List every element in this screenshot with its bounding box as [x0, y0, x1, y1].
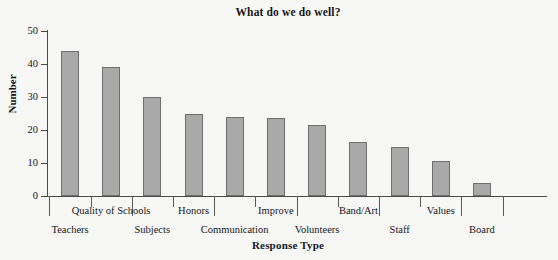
bar — [391, 147, 409, 197]
bar — [226, 117, 244, 196]
y-axis-tick — [41, 31, 47, 32]
bar — [185, 114, 203, 197]
y-axis-tick — [41, 130, 47, 131]
y-axis-tick-label: 10 — [2, 158, 38, 168]
bar — [432, 161, 450, 196]
x-axis-tick — [214, 196, 215, 216]
x-axis-tick — [255, 196, 256, 207]
y-axis-tick-label: 20 — [2, 125, 38, 135]
y-axis-tick-label: 50 — [2, 26, 38, 36]
x-axis-category-label: Subjects — [134, 225, 170, 236]
y-axis-line — [47, 30, 48, 197]
bar — [308, 125, 326, 196]
y-axis-tick — [41, 97, 47, 98]
y-axis-tick-label-text: 0 — [8, 191, 38, 202]
bar-chart: What do we do well? Number 01020304050 T… — [0, 0, 558, 260]
x-axis-category-label: Band/Art — [339, 206, 378, 217]
x-axis-tick — [379, 196, 380, 216]
y-axis-tick-label-text: 50 — [8, 26, 38, 37]
x-axis-category-label: Communication — [201, 225, 269, 236]
x-axis-category-label: Teachers — [52, 225, 89, 236]
y-axis-tick-label: 0 — [2, 191, 38, 201]
x-axis-tick — [297, 196, 298, 216]
x-axis-tick — [503, 196, 504, 216]
bar — [349, 142, 367, 196]
y-axis-tick-label-text: 20 — [8, 125, 38, 136]
x-axis-tick — [49, 196, 50, 216]
chart-title-text: What do we do well? — [235, 6, 340, 18]
x-axis-category-label: Volunteers — [295, 225, 340, 236]
x-axis-category-label: Values — [427, 206, 455, 217]
x-axis-category-label: Improve — [258, 206, 294, 217]
y-axis-tick-label-text: 40 — [8, 59, 38, 70]
y-axis-tick — [41, 64, 47, 65]
y-axis-tick-label-text: 30 — [8, 92, 38, 103]
y-axis-tick-label-text: 10 — [8, 158, 38, 169]
x-axis-category-label: Staff — [390, 225, 410, 236]
x-axis-category-label: Honors — [178, 206, 209, 217]
x-axis-tick — [420, 196, 421, 207]
y-axis-tick-label: 30 — [2, 92, 38, 102]
bar — [267, 118, 285, 196]
chart-title: What do we do well? — [0, 6, 558, 18]
x-axis-category-label: Quality of Schools — [72, 206, 151, 217]
y-axis-tick — [41, 196, 47, 197]
bar — [473, 183, 491, 196]
bar — [143, 97, 161, 196]
x-axis-title-text: Response Type — [252, 239, 324, 251]
y-axis-tick-label: 40 — [2, 59, 38, 69]
bar — [61, 51, 79, 196]
x-axis-category-label: Board — [469, 225, 495, 236]
x-axis-title: Response Type — [0, 239, 558, 251]
y-axis-tick — [41, 163, 47, 164]
bar — [102, 67, 120, 196]
x-axis-tick — [173, 196, 174, 207]
x-axis-tick — [461, 196, 462, 216]
